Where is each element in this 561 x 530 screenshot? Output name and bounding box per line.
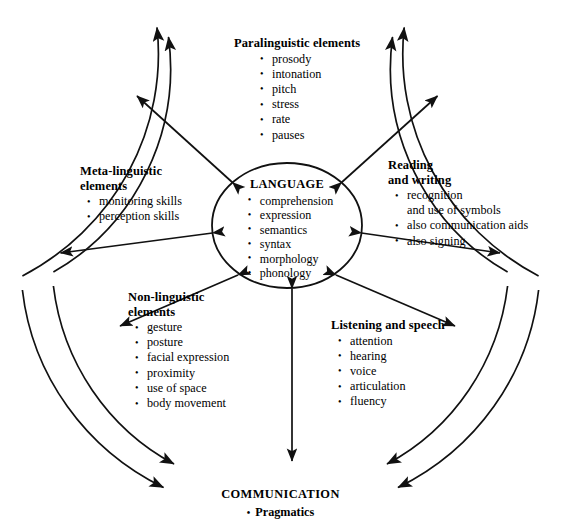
block-title: Meta-linguistic elements — [80, 164, 230, 193]
block-item-list: recognition and use of symbols also comm… — [394, 188, 548, 249]
list-item: fluency — [337, 394, 506, 409]
list-item: expression — [247, 208, 333, 223]
list-item: perception skills — [86, 209, 230, 224]
center-item-list: comprehension expression semantics synta… — [247, 194, 333, 282]
list-item: stress — [259, 97, 444, 112]
list-item: voice — [337, 364, 506, 379]
list-item: syntax — [247, 237, 333, 252]
block-meta-linguistic-elements: Meta-linguistic elements monitoring skil… — [80, 164, 230, 224]
list-item: pitch — [259, 82, 444, 97]
list-item: also communication aids — [394, 218, 548, 233]
center-language-node: LANGUAGE comprehension expression semant… — [212, 163, 362, 289]
list-item: gesture — [134, 320, 298, 335]
list-item: also signing — [394, 234, 548, 249]
list-item: hearing — [337, 349, 506, 364]
block-non-linguistic-elements: Non-linguistic elements gesture posture … — [128, 290, 298, 411]
block-item-list: prosody intonation pitch stress rate pau… — [259, 52, 444, 143]
communication-bullet-text: Pragmatics — [255, 505, 314, 519]
list-item: proximity — [134, 366, 298, 381]
diagram-canvas: Paralinguistic elements prosody intonati… — [0, 0, 561, 530]
list-item: phonology — [247, 266, 333, 281]
list-item: pauses — [259, 128, 444, 143]
list-item: facial expression — [134, 350, 298, 365]
list-item: intonation — [259, 67, 444, 82]
center-title: LANGUAGE — [250, 177, 324, 192]
block-reading-and-writing: Reading and writing recognition and use … — [388, 158, 548, 249]
list-item: morphology — [247, 252, 333, 267]
list-item: articulation — [337, 379, 506, 394]
block-title: Listening and speech — [331, 318, 506, 333]
list-item: rate — [259, 112, 444, 127]
block-listening-and-speech: Listening and speech attention hearing v… — [331, 318, 506, 410]
list-item: attention — [337, 334, 506, 349]
list-item: comprehension — [247, 194, 333, 209]
block-title: Non-linguistic elements — [128, 290, 298, 319]
list-item: use of space — [134, 381, 298, 396]
block-paralinguistic-elements: Paralinguistic elements prosody intonati… — [234, 36, 444, 143]
block-item-list: monitoring skills perception skills — [86, 194, 230, 224]
block-item-list: gesture posture facial expression proxim… — [134, 320, 298, 411]
list-item: prosody — [259, 52, 444, 67]
communication-bullet-row: •Pragmatics — [0, 505, 561, 520]
communication-label: COMMUNICATION •Pragmatics — [0, 487, 561, 520]
list-item: monitoring skills — [86, 194, 230, 209]
block-title: Reading and writing — [388, 158, 548, 187]
list-item: body movement — [134, 396, 298, 411]
list-item: semantics — [247, 223, 333, 238]
bullet-icon: • — [247, 507, 251, 518]
list-item: posture — [134, 335, 298, 350]
communication-title: COMMUNICATION — [0, 487, 561, 502]
list-item: recognition and use of symbols — [394, 188, 548, 218]
block-item-list: attention hearing voice articulation flu… — [337, 334, 506, 410]
block-title: Paralinguistic elements — [234, 36, 444, 51]
